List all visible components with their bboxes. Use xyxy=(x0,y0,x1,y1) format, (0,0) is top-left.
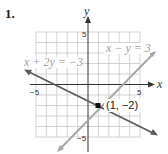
line1-label: x − y = 3 xyxy=(105,41,151,55)
y-axis-label: y xyxy=(83,4,90,18)
y-tick-5: 5 xyxy=(82,30,87,39)
x-axis-label: x xyxy=(156,77,163,91)
x-axis-arrow-icon xyxy=(148,82,155,88)
intersection-label: (1, −2) xyxy=(106,99,138,111)
coordinate-graph: x y −5 5 5 −5 x − y = 3 x + 2y = −3 (1, … xyxy=(0,0,168,154)
x-tick-neg5: −5 xyxy=(30,88,40,97)
y-tick-neg5: −5 xyxy=(77,134,87,143)
x-tick-5: 5 xyxy=(137,88,142,97)
intersection-point xyxy=(96,103,101,108)
line2-label: x + 2y = −3 xyxy=(23,55,83,69)
